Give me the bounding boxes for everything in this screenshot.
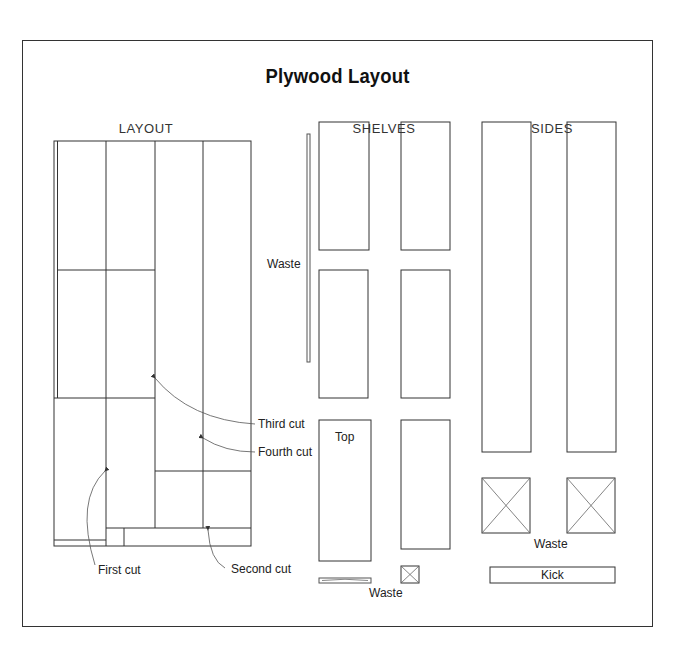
shelves-top-label: Top	[335, 430, 354, 444]
diagram-drawing	[0, 0, 675, 652]
callout-fourth-cut: Fourth cut	[258, 445, 312, 459]
callout-third-cut: Third cut	[258, 417, 305, 431]
callout-first-cut: First cut	[98, 563, 141, 577]
layout-sheet	[54, 141, 251, 546]
callout-leaders	[87, 378, 255, 568]
shelves-waste-strip-label: Waste	[267, 257, 301, 271]
callout-second-cut: Second cut	[231, 562, 291, 576]
shelves-waste-bottom-label: Waste	[369, 586, 403, 600]
sides-waste-label: Waste	[534, 537, 568, 551]
sides-parts	[482, 122, 616, 583]
plywood-layout-diagram: Plywood Layout LAYOUT SHELVES SIDES	[0, 0, 675, 652]
sides-kick-label: Kick	[541, 568, 564, 582]
shelves-parts	[307, 122, 450, 583]
